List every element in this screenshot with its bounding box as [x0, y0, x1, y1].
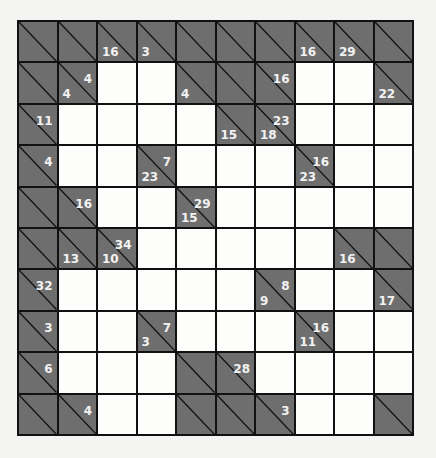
- entry-cell[interactable]: [59, 270, 97, 309]
- entry-cell[interactable]: [98, 353, 136, 392]
- clue-cell: 32: [19, 270, 57, 309]
- blocked-cell: [375, 395, 413, 434]
- entry-cell[interactable]: [138, 353, 176, 392]
- down-clue: 23: [300, 171, 317, 183]
- entry-cell[interactable]: [98, 188, 136, 227]
- entry-cell[interactable]: [296, 395, 334, 434]
- entry-cell[interactable]: [335, 63, 373, 102]
- across-clue: 16: [273, 73, 290, 85]
- across-clue: 8: [281, 280, 289, 292]
- diagonal-divider-icon: [256, 22, 294, 61]
- entry-cell[interactable]: [375, 353, 413, 392]
- entry-cell[interactable]: [98, 395, 136, 434]
- clue-cell: 13: [59, 229, 97, 268]
- entry-cell[interactable]: [217, 270, 255, 309]
- clue-cell: 16: [59, 188, 97, 227]
- entry-cell[interactable]: [296, 270, 334, 309]
- entry-cell[interactable]: [296, 188, 334, 227]
- entry-cell[interactable]: [296, 105, 334, 144]
- down-clue: 23: [142, 171, 159, 183]
- kakuro-grid: 1631629444162211151823423723161615291310…: [17, 20, 414, 436]
- entry-cell[interactable]: [98, 63, 136, 102]
- entry-cell[interactable]: [138, 270, 176, 309]
- entry-cell[interactable]: [256, 353, 294, 392]
- clue-cell: 4: [177, 63, 215, 102]
- blocked-cell: [19, 63, 57, 102]
- clue-cell: 1529: [177, 188, 215, 227]
- clue-cell: 44: [59, 63, 97, 102]
- blocked-cell: [19, 395, 57, 434]
- entry-cell[interactable]: [296, 353, 334, 392]
- across-clue: 3: [44, 322, 52, 334]
- entry-cell[interactable]: [138, 188, 176, 227]
- entry-cell[interactable]: [256, 146, 294, 185]
- across-clue: 6: [44, 363, 52, 375]
- entry-cell[interactable]: [335, 188, 373, 227]
- entry-cell[interactable]: [256, 229, 294, 268]
- blocked-cell: [375, 229, 413, 268]
- entry-cell[interactable]: [177, 105, 215, 144]
- diagonal-divider-icon: [19, 63, 57, 102]
- entry-cell[interactable]: [59, 312, 97, 351]
- entry-cell[interactable]: [375, 312, 413, 351]
- blocked-cell: [19, 188, 57, 227]
- entry-cell[interactable]: [138, 395, 176, 434]
- entry-cell[interactable]: [59, 105, 97, 144]
- entry-cell[interactable]: [98, 105, 136, 144]
- clue-cell: 37: [138, 312, 176, 351]
- entry-cell[interactable]: [335, 146, 373, 185]
- entry-cell[interactable]: [98, 146, 136, 185]
- down-clue: 16: [102, 46, 119, 58]
- across-clue: 28: [233, 363, 250, 375]
- entry-cell[interactable]: [217, 229, 255, 268]
- entry-cell[interactable]: [217, 312, 255, 351]
- across-clue: 4: [84, 405, 92, 417]
- entry-cell[interactable]: [296, 229, 334, 268]
- clue-cell: 11: [19, 105, 57, 144]
- diagonal-divider-icon: [177, 353, 215, 392]
- blocked-cell: [177, 395, 215, 434]
- entry-cell[interactable]: [98, 270, 136, 309]
- entry-cell[interactable]: [375, 146, 413, 185]
- diagonal-divider-icon: [375, 229, 413, 268]
- entry-cell[interactable]: [138, 63, 176, 102]
- entry-cell[interactable]: [217, 146, 255, 185]
- clue-cell: 6: [19, 353, 57, 392]
- entry-cell[interactable]: [98, 312, 136, 351]
- blocked-cell: [217, 22, 255, 61]
- entry-cell[interactable]: [177, 312, 215, 351]
- entry-cell[interactable]: [59, 146, 97, 185]
- entry-cell[interactable]: [177, 270, 215, 309]
- diagonal-divider-icon: [217, 63, 255, 102]
- entry-cell[interactable]: [335, 312, 373, 351]
- entry-cell[interactable]: [335, 270, 373, 309]
- entry-cell[interactable]: [138, 105, 176, 144]
- clue-cell: 1823: [256, 105, 294, 144]
- entry-cell[interactable]: [256, 312, 294, 351]
- down-clue: 15: [221, 129, 238, 141]
- down-clue: 18: [260, 129, 277, 141]
- across-clue: 4: [44, 156, 52, 168]
- clue-cell: 98: [256, 270, 294, 309]
- diagonal-divider-icon: [177, 22, 215, 61]
- clue-cell: 2316: [296, 146, 334, 185]
- entry-cell[interactable]: [177, 229, 215, 268]
- entry-cell[interactable]: [296, 63, 334, 102]
- entry-cell[interactable]: [375, 105, 413, 144]
- entry-cell[interactable]: [59, 353, 97, 392]
- entry-cell[interactable]: [217, 188, 255, 227]
- entry-cell[interactable]: [138, 229, 176, 268]
- entry-cell[interactable]: [335, 353, 373, 392]
- diagonal-divider-icon: [19, 395, 57, 434]
- clue-cell: 3: [256, 395, 294, 434]
- entry-cell[interactable]: [375, 188, 413, 227]
- blocked-cell: [19, 22, 57, 61]
- across-clue: 3: [281, 405, 289, 417]
- entry-cell[interactable]: [335, 105, 373, 144]
- down-clue: 3: [142, 46, 150, 58]
- entry-cell[interactable]: [256, 188, 294, 227]
- entry-cell[interactable]: [335, 395, 373, 434]
- across-clue: 4: [84, 73, 92, 85]
- entry-cell[interactable]: [177, 146, 215, 185]
- clue-cell: 17: [375, 270, 413, 309]
